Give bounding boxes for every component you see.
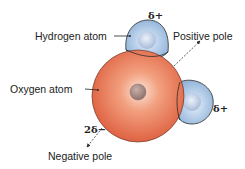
positive-pole-label: Positive pole xyxy=(173,30,233,42)
two-delta-minus-label: 2δ− xyxy=(84,124,106,135)
oxygen-atom-label: Oxygen atom xyxy=(10,83,73,95)
positive-pole-arrow xyxy=(174,41,200,66)
delta-plus-right-label: δ+ xyxy=(213,103,228,114)
water-molecule-diagram: Hydrogen atom Positive pole Oxygen atom … xyxy=(0,0,245,169)
hydrogen-atom-label: Hydrogen atom xyxy=(35,30,107,42)
negative-pole-label: Negative pole xyxy=(48,150,112,162)
delta-plus-top-label: δ+ xyxy=(148,10,163,21)
oxygen-nucleus xyxy=(130,84,146,100)
